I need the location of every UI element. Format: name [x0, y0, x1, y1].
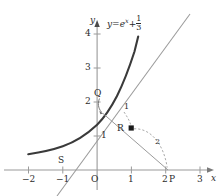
equation-fraction-denominator: 3: [136, 23, 141, 32]
y-tick-label-4: 4: [85, 29, 91, 38]
q-leader-arrow: [98, 99, 103, 115]
y-tick-label-2: 2: [85, 97, 91, 106]
annotation-1-label: 1: [124, 103, 129, 111]
x-tick-label-3: 3: [197, 175, 203, 184]
curve-equation-label: y=ex+13: [107, 15, 141, 33]
equation-plus: +: [129, 19, 137, 29]
equation-fraction: 13: [136, 15, 141, 33]
y-axis: [94, 20, 101, 190]
x-tick-label-2: 2: [162, 175, 168, 184]
annotation-2-label: 2: [155, 138, 160, 146]
exponential-curve: [28, 37, 138, 155]
origin-label: O: [91, 175, 98, 184]
annotation-2-arc: [134, 129, 167, 168]
point-Q-label: Q: [94, 89, 101, 98]
x-axis-label: x: [211, 174, 216, 183]
equation-equals: =: [112, 19, 120, 29]
x-tick-label-1: 1: [128, 175, 134, 184]
x-axis: [4, 167, 214, 174]
x-tick-label-neg2: −2: [22, 175, 35, 184]
point-R-label: R: [117, 124, 124, 133]
equation-fraction-numerator: 1: [136, 15, 141, 23]
y-axis-label: y: [90, 16, 95, 25]
x-tick-label-neg1: −1: [56, 175, 69, 184]
point-S-label: S: [58, 156, 64, 165]
annotation-1-leader: [124, 112, 131, 125]
point-P-label: P: [169, 175, 175, 184]
y-tick-label-3: 3: [85, 63, 91, 72]
y-tick-label-1: 1: [101, 131, 107, 140]
exponential-function-figure: y=ex+13 y x O −2 −1 1 2 3 1 2 3 4 Q R P …: [0, 0, 221, 196]
point-R-marker: [129, 125, 134, 130]
